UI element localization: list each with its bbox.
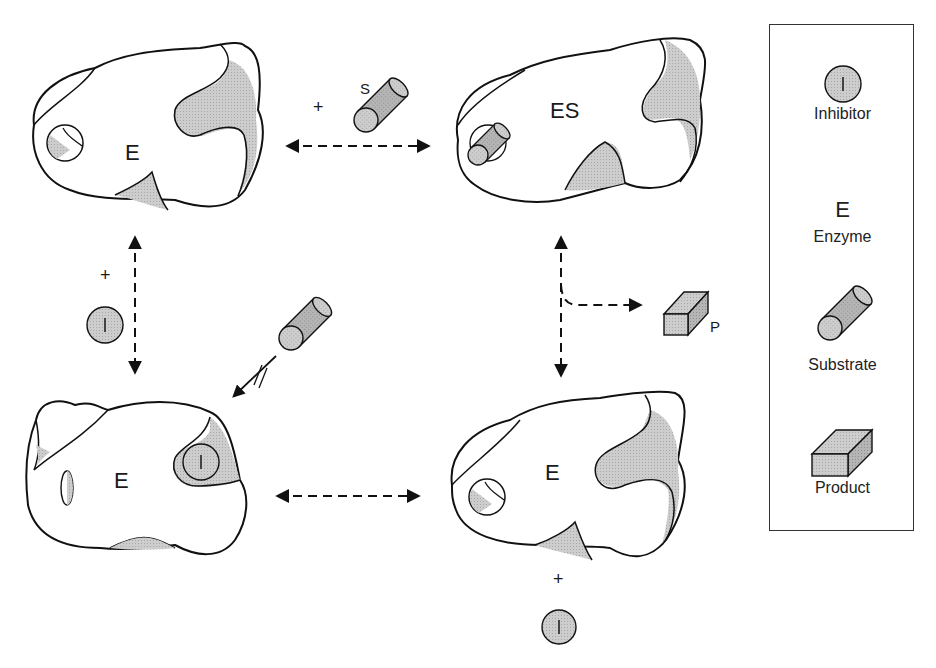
blocked-substrate bbox=[234, 294, 335, 396]
enzyme-inhibitor-complex-bottom-left bbox=[26, 401, 246, 554]
reaction-top bbox=[288, 75, 428, 146]
enzyme-substrate-complex-top-right bbox=[457, 38, 705, 202]
enzyme-label-bottom-right: E bbox=[545, 460, 560, 486]
enzyme-free-bottom-right bbox=[452, 392, 685, 644]
legend-label-product: Product bbox=[770, 479, 915, 497]
legend-label-enzyme: Enzyme bbox=[770, 228, 915, 246]
product-box-right bbox=[664, 292, 708, 335]
legend-label-inhibitor: Inhibitor bbox=[770, 105, 915, 123]
plus-sign-bottom: + bbox=[553, 569, 564, 590]
legend-box: Inhibitor E Enzyme Substrate Product bbox=[769, 24, 914, 531]
es-complex-label: ES bbox=[550, 98, 579, 124]
plus-sign-top: + bbox=[313, 97, 324, 118]
reaction-left bbox=[87, 238, 135, 372]
enzyme-label-bottom-left: E bbox=[114, 468, 129, 494]
substrate-cylinder-top bbox=[349, 75, 411, 137]
legend-enzyme-symbol: E bbox=[770, 197, 915, 223]
plus-sign-left: + bbox=[100, 265, 111, 286]
product-label-p: P bbox=[710, 318, 720, 335]
enzyme-free-top-left bbox=[33, 43, 263, 210]
substrate-label-s: S bbox=[360, 80, 370, 97]
legend-label-substrate: Substrate bbox=[770, 356, 915, 374]
enzyme-label-top-left: E bbox=[125, 140, 140, 166]
reaction-right bbox=[561, 238, 708, 375]
